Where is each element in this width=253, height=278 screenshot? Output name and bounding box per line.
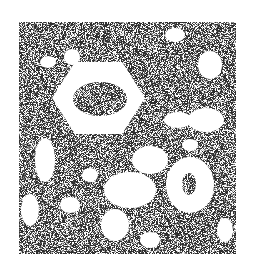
figure-panel: [19, 22, 236, 254]
pattern-image: [19, 22, 236, 254]
